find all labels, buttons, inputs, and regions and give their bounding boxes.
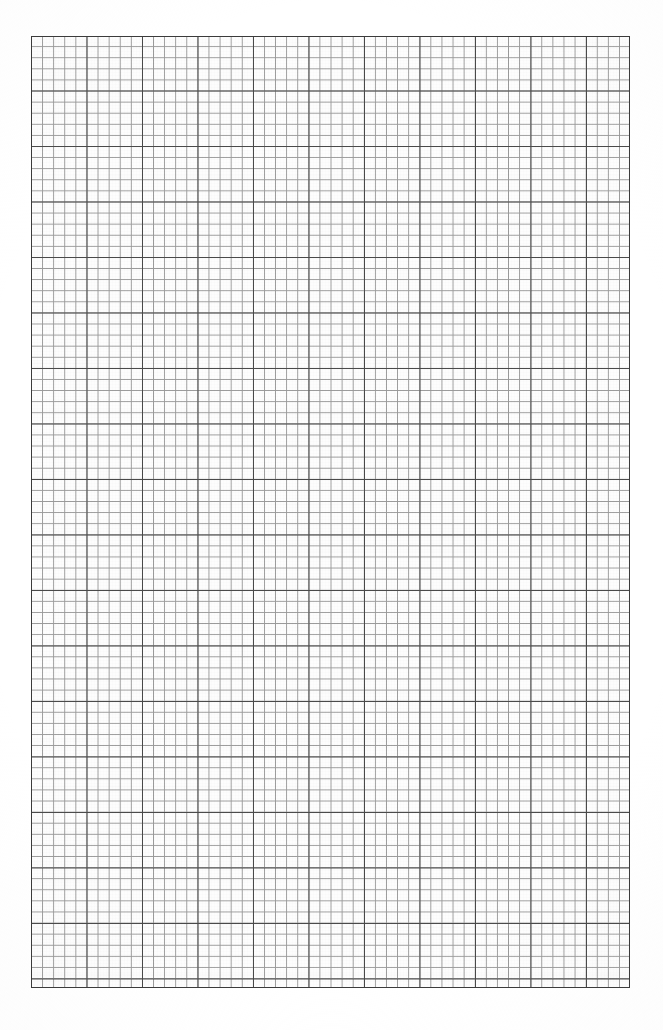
graph-paper-page: Graph Paper Sheet (0, 0, 663, 1030)
graph-grid (31, 36, 630, 988)
